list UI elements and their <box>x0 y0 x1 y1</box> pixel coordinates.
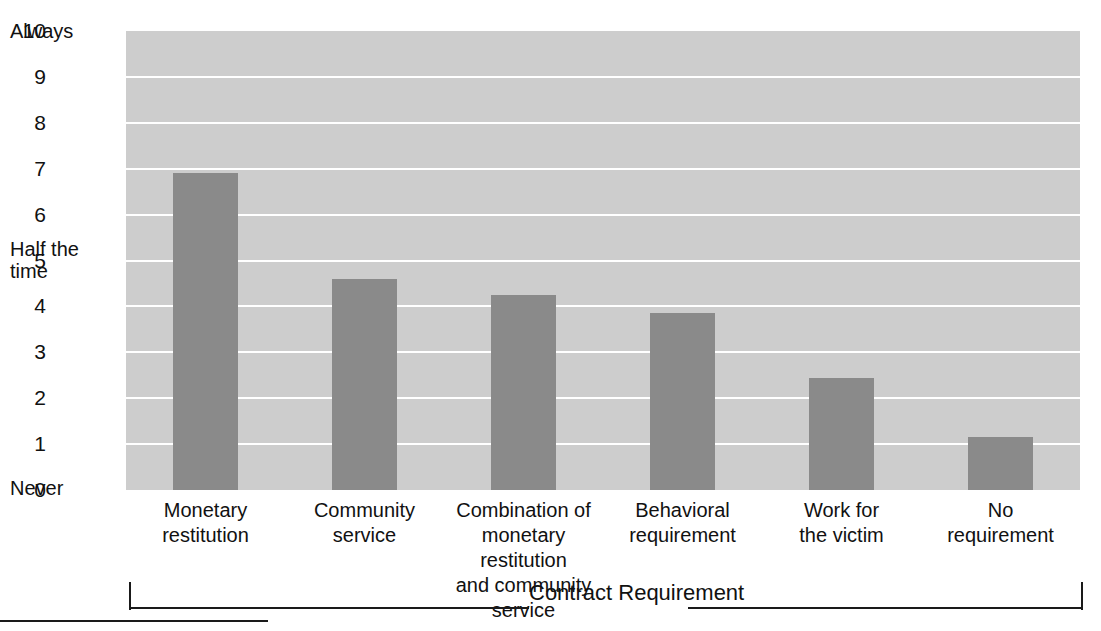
bar <box>650 313 715 490</box>
page-rule-divider <box>0 620 268 622</box>
x-axis-category-labels: Monetary restitutionCommunity serviceCom… <box>126 498 1080 578</box>
y-axis: Always Half thetime Never 109876543210 <box>0 0 126 631</box>
y-tick-label-4: 4 <box>6 295 46 316</box>
bar-chart-figure: Always Half thetime Never 109876543210 M… <box>0 0 1101 631</box>
bar <box>809 378 874 490</box>
bracket-rule-right <box>688 607 1083 609</box>
y-tick-label-6: 6 <box>6 204 46 225</box>
bar <box>968 437 1033 490</box>
gridline <box>126 351 1080 353</box>
x-axis-label-6: No requirement <box>921 498 1080 548</box>
bar <box>332 279 397 490</box>
x-axis-label-1: Monetary restitution <box>126 498 285 548</box>
y-tick-label-10: 10 <box>6 20 46 41</box>
x-axis-label-5: Work for the victim <box>762 498 921 548</box>
gridline <box>126 122 1080 124</box>
gridline <box>126 305 1080 307</box>
gridline <box>126 397 1080 399</box>
x-axis-title: Contract Requirement <box>529 580 688 606</box>
y-tick-label-5: 5 <box>6 250 46 271</box>
y-tick-label-9: 9 <box>6 66 46 87</box>
y-tick-label-0: 0 <box>6 479 46 500</box>
x-axis-label-2: Community service <box>285 498 444 548</box>
y-tick-label-1: 1 <box>6 433 46 454</box>
bracket-tick-right <box>1081 582 1083 610</box>
gridline <box>126 76 1080 78</box>
gridline <box>126 260 1080 262</box>
x-axis-label-4: Behavioral requirement <box>603 498 762 548</box>
y-tick-label-7: 7 <box>6 158 46 179</box>
y-tick-label-2: 2 <box>6 387 46 408</box>
bar <box>173 173 238 490</box>
bracket-tick-left <box>129 582 131 610</box>
bar <box>491 295 556 490</box>
x-axis-bracket: Contract Requirement <box>129 582 1083 610</box>
bracket-rule-left <box>129 607 529 609</box>
gridline <box>126 443 1080 445</box>
plot-area <box>126 31 1080 490</box>
gridline <box>126 214 1080 216</box>
y-tick-label-3: 3 <box>6 341 46 362</box>
y-tick-label-8: 8 <box>6 112 46 133</box>
gridline <box>126 168 1080 170</box>
